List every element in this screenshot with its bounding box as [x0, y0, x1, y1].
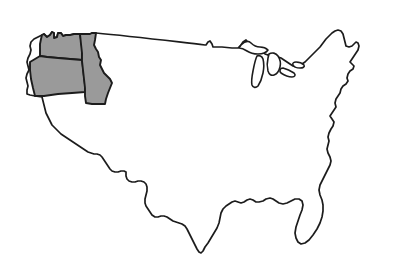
state-washington[interactable] — [40, 32, 82, 60]
us-map-figure: Map of the contiguous United States Paci… — [0, 0, 400, 271]
lake-ontario-outline — [293, 62, 305, 68]
state-oregon[interactable] — [30, 56, 85, 96]
us-map-svg[interactable] — [0, 0, 400, 271]
lake-huron-outline — [267, 53, 280, 75]
